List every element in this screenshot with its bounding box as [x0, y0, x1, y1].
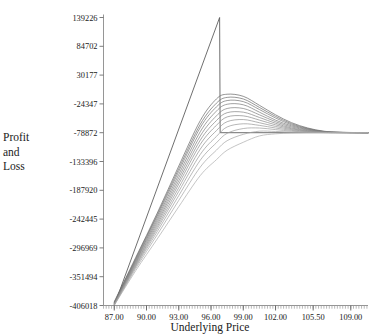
series-line	[114, 128, 368, 305]
series-layer	[114, 18, 368, 306]
y-tick-label: 139226	[72, 14, 97, 23]
plot-area: 1392268470230177-24347-78872-133396-1879…	[0, 0, 373, 335]
y-tick-label: 84702	[77, 42, 98, 51]
series-line	[114, 104, 368, 304]
series-line	[114, 112, 368, 304]
x-tick-layer: 87.0090.0093.0096.0099.00102.00105.50109…	[104, 306, 367, 323]
series-line	[114, 120, 368, 305]
x-tick-label: 105.50	[302, 313, 325, 322]
y-tick-label: -242445	[70, 215, 98, 224]
y-tick-label: -187920	[70, 186, 98, 195]
x-tick-label: 109.00	[339, 313, 362, 322]
series-line	[114, 94, 368, 302]
y-tick-label: -78872	[74, 129, 98, 138]
series-line	[114, 108, 368, 304]
series-line	[114, 124, 368, 305]
y-tick-label: -351494	[70, 273, 99, 282]
series-line	[114, 133, 368, 306]
series-line	[114, 97, 368, 302]
x-axis-title: Underlying Price	[171, 321, 250, 334]
y-tick-layer: 1392268470230177-24347-78872-133396-1879…	[70, 14, 104, 311]
y-tick-label: 30177	[77, 71, 98, 80]
profit-loss-chart: Profit and Loss 1392268470230177-24347-7…	[0, 0, 373, 335]
series-line	[114, 18, 368, 306]
y-tick-label: -406018	[70, 302, 98, 311]
x-tick-label: 90.00	[137, 313, 156, 322]
axis-layer	[104, 15, 369, 306]
y-tick-label: -24347	[74, 100, 98, 109]
series-line	[114, 131, 368, 305]
x-tick-label: 87.00	[105, 313, 124, 322]
y-tick-label: -133396	[70, 158, 98, 167]
x-tick-label: 102.00	[264, 313, 287, 322]
series-line	[114, 116, 368, 305]
y-tick-label: -296969	[70, 244, 98, 253]
